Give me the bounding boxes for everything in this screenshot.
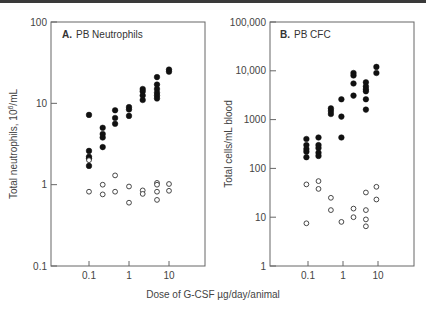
filled-data-point	[351, 81, 357, 87]
open-data-point	[374, 184, 379, 189]
y-tick-label: 1	[260, 261, 266, 272]
y-tick-label: 10	[255, 212, 267, 223]
figure: A.PB Neutrophils 0.1110100 0.1110 Total …	[0, 0, 426, 310]
open-data-point	[364, 217, 369, 222]
open-data-point	[127, 184, 132, 189]
open-data-point	[304, 221, 309, 226]
panel-b-title: B.PB CFC	[280, 29, 331, 40]
x-tick-label: 0.1	[82, 270, 96, 281]
x-tick-label: 1	[340, 270, 346, 281]
filled-data-point	[328, 111, 334, 117]
filled-data-point	[86, 112, 92, 118]
panel-b: B.PB CFC 110100100010,000100,000 0.1110 …	[223, 17, 414, 282]
open-data-point	[364, 208, 369, 213]
panel-b-y-axis: 110100100010,000100,000	[230, 17, 276, 272]
open-data-point	[167, 182, 172, 187]
panel-a-y-axis: 0.1110100	[30, 17, 57, 272]
open-data-point	[304, 182, 309, 187]
filled-data-point	[100, 144, 106, 150]
x-axis-title: Dose of G-CSF µg/day/animal	[0, 289, 426, 300]
panel-a-x-axis: 0.1110	[82, 261, 175, 281]
y-tick-label: 0.1	[33, 261, 47, 272]
panel-a-y-axis-title: Total neutrophils, 106/mL	[7, 89, 19, 200]
filled-data-point	[126, 107, 132, 113]
filled-data-point	[304, 154, 310, 160]
filled-data-point	[154, 74, 160, 80]
open-data-point	[113, 189, 118, 194]
filled-data-point	[86, 163, 92, 169]
filled-data-point	[339, 114, 345, 120]
panel-a-frame	[51, 22, 205, 266]
filled-data-point	[339, 97, 345, 103]
x-tick-label: 0.1	[301, 270, 315, 281]
panel-a: A.PB Neutrophils 0.1110100 0.1110 Total …	[7, 17, 205, 282]
open-data-point	[100, 192, 105, 197]
open-data-point	[155, 198, 160, 203]
filled-data-point	[112, 108, 118, 114]
panel-a-points	[86, 67, 172, 205]
x-tick-label: 10	[163, 270, 175, 281]
filled-data-point	[316, 135, 322, 141]
open-data-point	[316, 187, 321, 192]
filled-data-point	[316, 153, 322, 159]
filled-data-point	[363, 89, 369, 95]
filled-data-point	[112, 121, 118, 127]
filled-data-point	[112, 115, 118, 121]
filled-data-point	[304, 149, 310, 155]
open-data-point	[351, 215, 356, 220]
open-data-point	[87, 158, 92, 163]
y-tick-label: 10	[36, 98, 48, 109]
open-data-point	[374, 197, 379, 202]
filled-data-point	[166, 69, 172, 75]
y-tick-label: 100,000	[230, 17, 267, 28]
panel-a-title: A.PB Neutrophils	[62, 29, 143, 40]
open-data-point	[155, 189, 160, 194]
y-tick-label: 100	[30, 17, 47, 28]
open-data-point	[339, 220, 344, 225]
open-data-point	[329, 208, 334, 213]
open-data-point	[87, 189, 92, 194]
filled-data-point	[100, 135, 106, 141]
y-tick-label: 1	[41, 179, 47, 190]
open-data-point	[155, 182, 160, 187]
filled-data-point	[351, 73, 357, 79]
y-tick-label: 1000	[244, 114, 267, 125]
panel-b-points	[304, 64, 380, 229]
filled-data-point	[304, 136, 310, 142]
open-data-point	[113, 173, 118, 178]
filled-data-point	[126, 113, 132, 119]
filled-data-point	[100, 125, 106, 131]
open-data-point	[364, 224, 369, 229]
filled-data-point	[374, 70, 380, 76]
x-tick-label: 1	[126, 270, 132, 281]
panel-b-frame	[270, 22, 414, 266]
y-tick-label: 100	[249, 163, 266, 174]
x-tick-label: 10	[372, 270, 384, 281]
panel-b-y-axis-title: Total cells/mL blood	[223, 100, 234, 187]
open-data-point	[364, 190, 369, 195]
open-data-point	[329, 195, 334, 200]
filled-data-point	[363, 107, 369, 113]
y-tick-label: 10,000	[235, 65, 266, 76]
open-data-point	[351, 206, 356, 211]
filled-data-point	[374, 64, 380, 70]
filled-data-point	[339, 135, 345, 141]
filled-data-point	[86, 148, 92, 154]
open-data-point	[140, 192, 145, 197]
open-data-point	[100, 182, 105, 187]
filled-data-point	[154, 96, 160, 102]
filled-data-point	[351, 93, 357, 99]
open-data-point	[167, 188, 172, 193]
filled-data-point	[363, 97, 369, 103]
open-data-point	[316, 179, 321, 184]
open-data-point	[127, 200, 132, 205]
panel-b-x-axis: 0.1110	[301, 261, 384, 281]
filled-data-point	[140, 97, 146, 103]
